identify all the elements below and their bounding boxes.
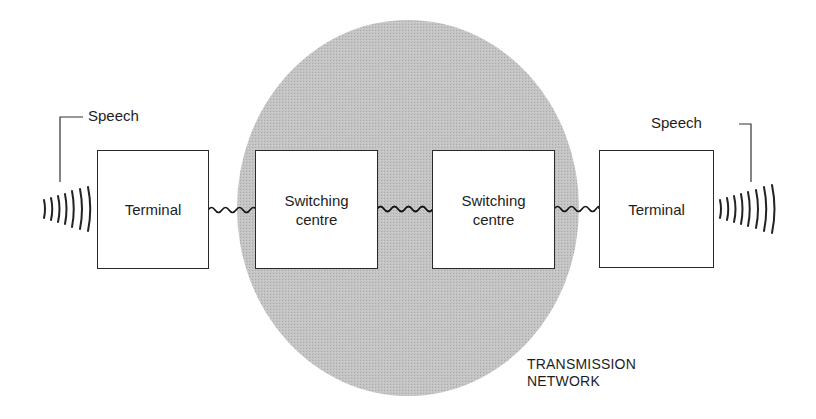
transmission-network-label-line1: TRANSMISSION: [527, 356, 636, 373]
terminal-right-label: Terminal: [628, 200, 685, 219]
right-speech-label: Speech: [651, 114, 702, 131]
switching-centre-right-box: Switching centre: [432, 150, 555, 269]
switching-centre-left-label-line1: Switching: [284, 191, 348, 210]
switching-centre-left-box: Switching centre: [255, 150, 378, 269]
switching-centre-left-label-line2: centre: [284, 210, 348, 229]
right-sound-waves-icon: [720, 185, 775, 233]
left-speech-leader-line: [60, 117, 83, 182]
switching-centre-right-label-line1: Switching: [461, 191, 525, 210]
transmission-network-label: TRANSMISSION NETWORK: [527, 356, 636, 390]
terminal-left-box: Terminal: [97, 150, 209, 269]
terminal-left-label: Terminal: [125, 200, 182, 219]
terminal-right-box: Terminal: [599, 150, 714, 268]
switching-centre-right-label-line2: centre: [461, 210, 525, 229]
left-sound-waves-icon: [44, 187, 90, 231]
right-speech-leader-line: [739, 124, 751, 182]
left-speech-label: Speech: [88, 107, 139, 124]
transmission-network-label-line2: NETWORK: [527, 373, 636, 390]
